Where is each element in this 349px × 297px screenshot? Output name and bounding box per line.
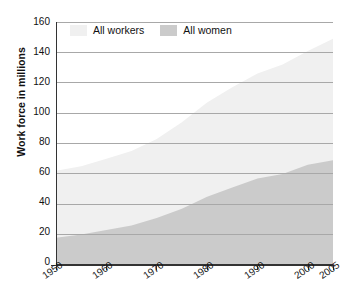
chart-plot-svg xyxy=(0,0,349,297)
legend-swatch-all-workers xyxy=(70,25,87,36)
legend-item-all-women: All women xyxy=(160,24,231,36)
legend-swatch-all-women xyxy=(160,25,177,36)
legend-label-all-women: All women xyxy=(183,24,231,36)
chart-legend: All workers All women xyxy=(70,24,248,36)
legend-item-all-workers: All workers xyxy=(70,24,144,36)
legend-label-all-workers: All workers xyxy=(93,24,144,36)
work-force-area-chart: Work force in millions 160 140 120 100 8… xyxy=(0,0,349,297)
